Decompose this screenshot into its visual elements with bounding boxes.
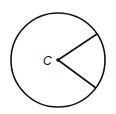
circle-diagram: C — [0, 0, 116, 114]
radius-lower — [58, 60, 96, 88]
center-point — [56, 58, 60, 62]
radius-upper — [58, 34, 97, 60]
center-label: C — [43, 54, 52, 68]
